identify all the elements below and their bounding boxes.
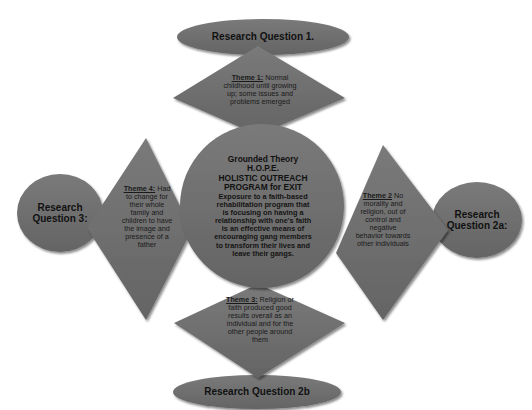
center-label: Grounded Theory H.O.P.E. HOLISTIC OUTREA… [214, 155, 312, 258]
theme2-label: Theme 2 No morality and religion, out of… [355, 192, 411, 248]
theme4-label: Theme 4: Had to change for their whole f… [120, 185, 174, 250]
theme3-label: Theme 3: Religion or faith produced good… [220, 296, 300, 344]
theme4-text: Had to change for their whole family and… [122, 184, 173, 249]
rq3-label: Research Question 3: [22, 198, 98, 228]
theme1-label: Theme 1: Normal childhood until growing … [222, 74, 298, 106]
center-body: Exposure to a faith-based rehabilitation… [214, 193, 312, 258]
rq1-label: Research Question 1. [180, 26, 346, 48]
theme2-text: No morality and religion, out of control… [356, 191, 411, 248]
rq2b-label: Research Question 2b [180, 381, 334, 403]
theme3-text: Religion or faith produced good results … [227, 295, 294, 344]
rq2a-label: Research Question 2a: [440, 195, 514, 245]
